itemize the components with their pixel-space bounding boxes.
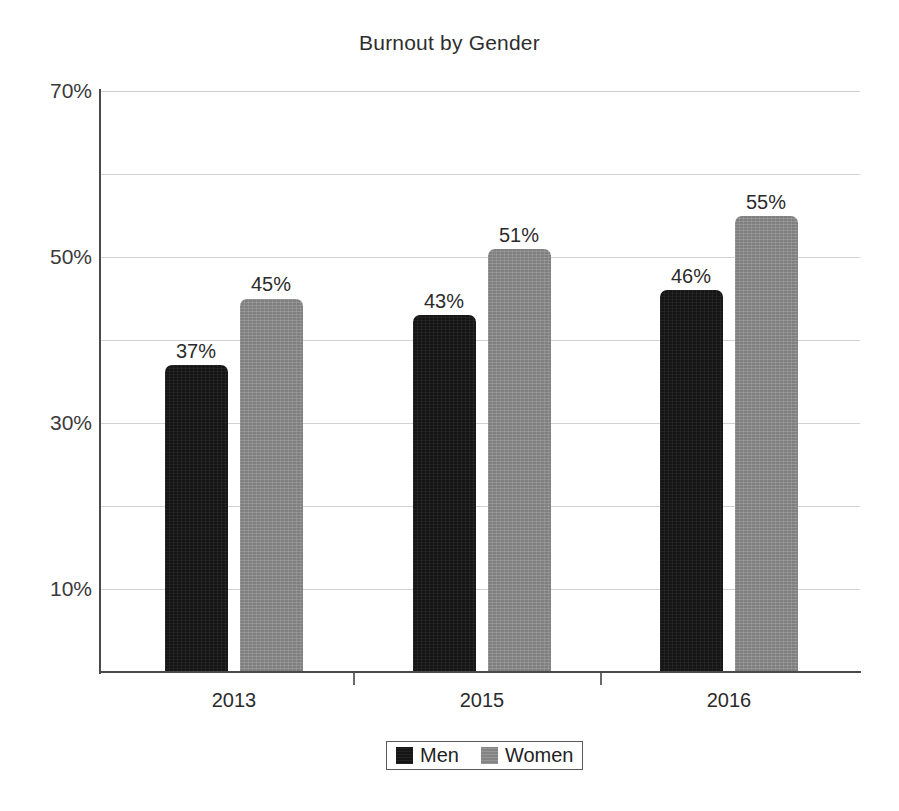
legend-swatch-women-icon xyxy=(481,747,498,764)
category-label-2015: 2015 xyxy=(460,689,505,712)
y-tick-label-70: 70% xyxy=(6,79,92,103)
bar-women-2015 xyxy=(488,249,551,672)
bar-women-2016 xyxy=(735,216,798,673)
gridline-70 xyxy=(100,91,860,92)
bar-value-men-2013: 37% xyxy=(176,340,216,363)
legend-item-men[interactable]: Men xyxy=(396,744,459,767)
chart-legend: Men Women xyxy=(386,741,583,770)
y-tick-label-50: 50% xyxy=(6,245,92,269)
y-axis-tick-labels: 70% 50% 30% 10% xyxy=(0,0,92,811)
bar-women-2013 xyxy=(240,299,303,673)
bar-men-2015 xyxy=(413,315,476,672)
y-tick-label-10: 10% xyxy=(6,577,92,601)
chart-title: Burnout by Gender xyxy=(0,31,899,55)
bar-value-women-2013: 45% xyxy=(251,273,291,296)
bar-chart: Burnout by Gender 70% 50% 30% 10% 37% 45… xyxy=(0,0,899,811)
category-label-2016: 2016 xyxy=(707,689,752,712)
bar-value-men-2016: 46% xyxy=(671,265,711,288)
bar-men-2013 xyxy=(165,365,228,672)
y-tick-label-30: 30% xyxy=(6,411,92,435)
category-label-2013: 2013 xyxy=(212,689,257,712)
bar-value-women-2015: 51% xyxy=(499,224,539,247)
legend-swatch-men-icon xyxy=(396,747,413,764)
bar-value-men-2015: 43% xyxy=(424,290,464,313)
bar-men-2016 xyxy=(660,290,723,672)
y-axis-line xyxy=(99,89,101,674)
bar-value-women-2016: 55% xyxy=(746,191,786,214)
legend-label-women: Women xyxy=(505,744,574,767)
x-axis-tick-2 xyxy=(600,673,602,685)
legend-item-women[interactable]: Women xyxy=(481,744,574,767)
gridline-60 xyxy=(100,174,860,175)
x-axis-line xyxy=(99,671,861,673)
x-axis-tick-1 xyxy=(353,673,355,685)
plot-area xyxy=(100,91,860,672)
legend-label-men: Men xyxy=(420,744,459,767)
